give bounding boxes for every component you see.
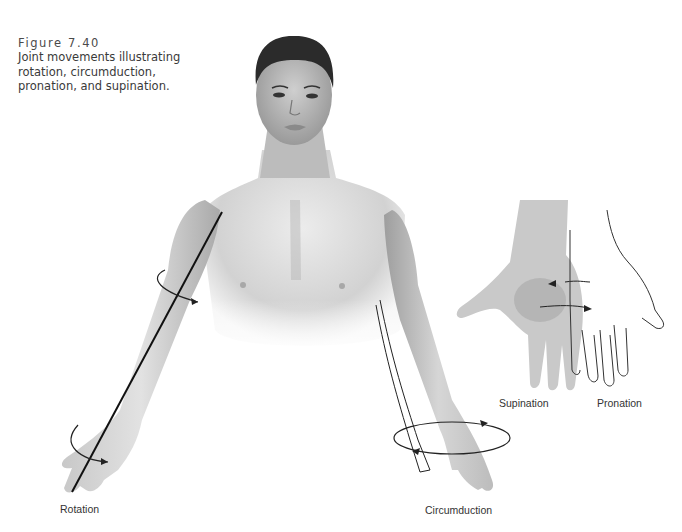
left-arm-rotation [62, 200, 222, 492]
rotation-label: Rotation [60, 503, 99, 515]
anatomy-illustration [0, 0, 682, 532]
pronation-hand [570, 210, 664, 386]
head [256, 36, 334, 145]
supination-label: Supination [499, 397, 549, 409]
axis-line [72, 212, 222, 492]
torso [200, 150, 410, 360]
pronation-label: Pronation [597, 397, 642, 409]
circumduction-label: Circumduction [425, 504, 492, 516]
